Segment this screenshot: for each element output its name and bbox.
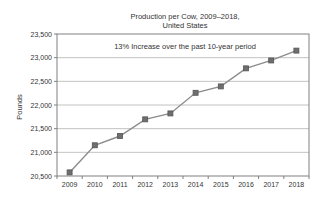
series-line [70,51,297,173]
x-tick-label: 2012 [137,181,153,188]
x-tick-label: 2018 [289,181,305,188]
axis-ticks [54,34,309,179]
data-series [67,48,299,175]
data-point-marker [92,143,97,148]
y-axis-labels: 20,50021,00021,50022,00022,50023,00023,5… [31,31,53,180]
chart: Production per Cow, 2009–2018, United St… [0,0,320,201]
data-point-marker [218,84,223,89]
x-tick-label: 2010 [87,181,103,188]
data-point-marker [294,48,299,53]
x-tick-label: 2017 [263,181,279,188]
y-axis-title: Pounds [15,94,24,120]
data-point-marker [193,90,198,95]
gridlines [57,58,309,153]
y-tick-label: 23,500 [31,31,53,38]
y-tick-label: 20,500 [31,173,53,180]
chart-title-line2: United States [162,21,207,30]
y-tick-label: 21,000 [31,149,53,156]
x-tick-label: 2015 [213,181,229,188]
y-tick-label: 23,000 [31,54,53,61]
x-tick-label: 2009 [62,181,78,188]
x-tick-label: 2016 [238,181,254,188]
data-point-marker [269,58,274,63]
chart-canvas: Production per Cow, 2009–2018, United St… [0,0,320,201]
data-point-marker [67,170,72,175]
y-tick-label: 22,500 [31,78,53,85]
x-tick-label: 2014 [188,181,204,188]
data-point-marker [168,111,173,116]
data-point-marker [118,134,123,139]
data-point-marker [143,117,148,122]
chart-title-line1: Production per Cow, 2009–2018, [130,12,239,21]
x-axis-labels: 2009201020112012201320142015201620172018 [62,181,304,188]
chart-annotation: 13% Increase over the past 10-year perio… [114,42,256,51]
data-point-marker [244,66,249,71]
y-tick-label: 21,500 [31,125,53,132]
y-tick-label: 22,000 [31,102,53,109]
x-tick-label: 2013 [163,181,179,188]
x-tick-label: 2011 [112,181,127,188]
